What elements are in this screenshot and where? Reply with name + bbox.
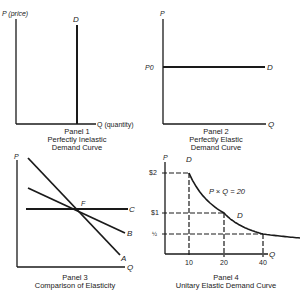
p1-x-label: Q (quantity) — [97, 121, 134, 129]
elasticity-figure: P (price) D Q (quantity) Panel 1 Perfect… — [0, 0, 304, 296]
p4-y-label: P — [163, 154, 168, 161]
p1-y-label: P (price) — [2, 10, 28, 18]
p4-y-tick-1: $1 — [151, 209, 159, 216]
p4-y-tick-2: $2 — [149, 169, 157, 176]
p3-b-label: B — [127, 229, 133, 238]
p3-a-label: A — [120, 254, 126, 263]
p3-f-label: F — [81, 200, 86, 207]
p4-x-tick-40: 40 — [259, 259, 267, 266]
panel-3: P F C B A Q Panel 3 Comparison of Elasti… — [14, 153, 135, 290]
p1-d-label: D — [73, 15, 79, 24]
p3-line-b — [28, 188, 125, 233]
p4-d-mid-label: D — [237, 211, 243, 220]
p2-y-label: P — [160, 10, 165, 17]
p4-x-tick-20: 20 — [220, 259, 228, 266]
p4-demand-curve — [189, 173, 300, 238]
p4-dynamic-marks — [162, 173, 300, 257]
p4-d-top-label: D — [186, 155, 192, 164]
panel-1: P (price) D Q (quantity) Panel 1 Perfect… — [2, 10, 134, 152]
p2-d-label: D — [267, 63, 273, 72]
p3-caption-line1: Comparison of Elasticity — [35, 281, 116, 290]
p3-line-a — [28, 158, 120, 255]
p2-p0-label: P0 — [145, 64, 154, 71]
p4-caption-line1: Unitary Elastic Demand Curve — [176, 281, 276, 290]
p4-equation-label: P × Q = 20 — [209, 187, 246, 196]
p4-x-label: Q — [269, 250, 275, 259]
panel-2: P P0 D Q Panel 2 Perfectly Elastic Deman… — [145, 10, 274, 152]
p3-c-label: C — [129, 205, 135, 214]
panel-4: P D P × Q = 20 D $2 $1 ½ 10 20 40 Q Pane… — [149, 154, 300, 290]
p3-x-label: Q — [127, 263, 133, 272]
p1-caption-line2: Demand Curve — [52, 143, 102, 152]
p2-x-label: Q — [268, 120, 274, 129]
p4-x-tick-10: 10 — [185, 259, 193, 266]
p4-y-tick-half: ½ — [152, 231, 157, 237]
p2-caption-line2: Demand Curve — [191, 143, 241, 152]
p3-y-label: P — [14, 153, 19, 160]
